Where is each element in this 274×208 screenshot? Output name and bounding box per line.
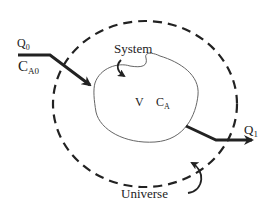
system-boundary (94, 53, 198, 142)
inlet-concentration-label: CA0 (18, 58, 40, 76)
diagram-canvas: Q0 CA0 System V CA Q1 Universe (0, 0, 274, 208)
outlet-stream-arrow (186, 126, 252, 140)
concentration-label: CA (156, 95, 170, 111)
universe-pointer-arrow (188, 163, 201, 193)
inlet-flow-label: Q0 (17, 36, 30, 52)
outlet-flow-label: Q1 (244, 122, 258, 139)
system-label: System (114, 41, 152, 56)
system-pointer-arrow (118, 60, 124, 76)
volume-label: V (135, 95, 144, 109)
universe-label: Universe (121, 186, 168, 201)
